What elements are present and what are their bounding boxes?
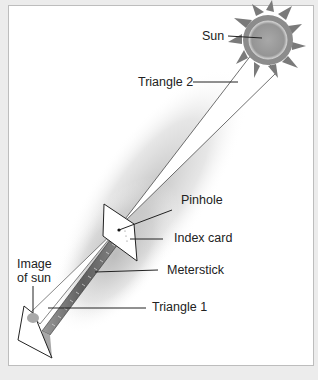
- pinhole-diagram: [0, 0, 318, 380]
- label-index-card: Index card: [174, 232, 232, 246]
- label-image-of-sun-line1: Image: [17, 258, 52, 272]
- label-image-of-sun-line2: of sun: [17, 272, 51, 286]
- label-triangle-2: Triangle 2: [138, 76, 193, 90]
- label-sun: Sun: [202, 30, 224, 44]
- image-of-sun-spot: [27, 313, 39, 323]
- label-triangle-1: Triangle 1: [152, 301, 207, 315]
- label-meterstick: Meterstick: [167, 264, 224, 278]
- label-pinhole: Pinhole: [181, 194, 223, 208]
